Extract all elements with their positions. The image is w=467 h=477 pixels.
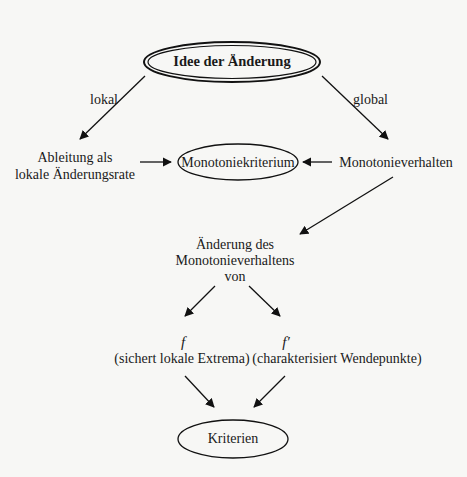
- node-change-of-monotony: Änderung des Monotonieverhaltens von: [170, 237, 300, 285]
- node-change-line-2: Monotonieverhaltens: [170, 253, 300, 269]
- node-derivative-line-1: Ableitung als: [10, 149, 140, 166]
- edge-behavior-to-change: [300, 177, 393, 234]
- node-derivative-line-2: lokale Änderungsrate: [10, 166, 140, 183]
- node-f-symbol: f: [163, 334, 203, 351]
- node-idea-of-change: Idee der Änderung: [150, 53, 314, 70]
- node-change-line-3: von: [170, 269, 300, 285]
- edge-f-to-criteria: [185, 376, 214, 407]
- node-derivative: Ableitung als lokale Änderungsrate: [10, 149, 140, 183]
- node-criteria: Kriterien: [183, 430, 283, 447]
- node-change-line-1: Änderung des: [170, 237, 300, 253]
- node-f-description: (sichert lokale Extrema): [102, 350, 262, 367]
- edge-change-to-f: [185, 286, 215, 316]
- edge-fprime-to-criteria: [254, 376, 285, 407]
- node-monotony-criterion: Monotoniekriterium: [178, 154, 298, 171]
- edge-label-local: lokal: [90, 92, 118, 108]
- node-monotony-behavior: Monotonieverhalten: [336, 154, 456, 171]
- edge-label-global: global: [353, 92, 388, 108]
- node-f-prime-symbol: f′: [266, 334, 306, 351]
- node-f-prime-description: (charakterisiert Wendepunkte): [242, 350, 432, 367]
- edge-change-to-fprime: [249, 286, 280, 316]
